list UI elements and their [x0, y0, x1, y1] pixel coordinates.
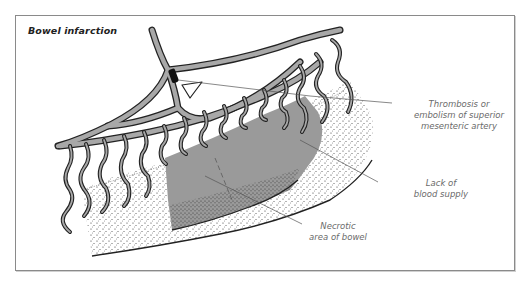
- label-necrotic-line-1: Necrotic: [298, 221, 378, 232]
- label-necrotic-line-2: area of bowel: [298, 232, 378, 243]
- label-thrombosis-line-3: mesenteric artery: [404, 121, 514, 132]
- label-thrombosis-line-1: Thrombosis or: [404, 99, 514, 110]
- label-thrombosis: Thrombosis or embolism of superior mesen…: [404, 99, 514, 132]
- label-necrotic-area: Necrotic area of bowel: [298, 221, 378, 243]
- label-thrombosis-line-2: embolism of superior: [404, 110, 514, 121]
- bowel-infarction-diagram: [0, 0, 530, 288]
- label-blood-line-1: Lack of: [406, 178, 476, 189]
- label-lack-of-blood-supply: Lack of blood supply: [406, 178, 476, 200]
- label-blood-line-2: blood supply: [406, 189, 476, 200]
